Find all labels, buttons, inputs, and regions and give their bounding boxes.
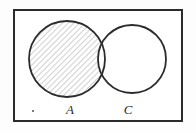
circle-c-label: C: [124, 102, 133, 117]
venn-diagram-canvas: A C: [0, 0, 196, 131]
circle-a-label: A: [65, 102, 74, 117]
venn-diagram-figure: A C: [0, 0, 196, 131]
stray-dot-mark: [32, 110, 34, 112]
